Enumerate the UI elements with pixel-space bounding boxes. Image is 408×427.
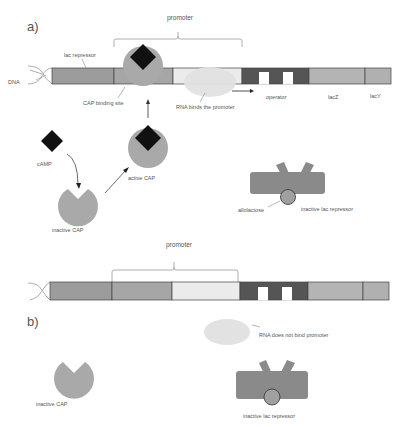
operator-notch	[282, 287, 292, 301]
segment-lacz	[309, 68, 365, 84]
segment-lac-repressor-gene	[52, 68, 114, 84]
promoter-bracket-a	[114, 32, 242, 47]
active-cap-label: active CAP	[128, 175, 156, 181]
dna-strands-icon-a	[28, 66, 52, 84]
rna-label-b: RNA does not bind promoter	[259, 332, 329, 338]
allolactose-icon	[264, 389, 280, 405]
segment-operator	[242, 68, 309, 84]
inactive-repressor-label-b: inactive lac repressor	[243, 413, 295, 419]
panel-a-label: a)	[27, 19, 39, 34]
inactive-repressor-label-a: inactive lac repressor	[301, 206, 353, 212]
leader-line	[82, 59, 86, 68]
camp-label: cAMP	[37, 161, 52, 167]
inactive-cap-label-b: inactive CAP	[36, 401, 68, 407]
curved-arrow-icon	[67, 154, 81, 189]
segment-operator	[240, 282, 308, 300]
leader-line	[118, 87, 125, 98]
dna-strip-b	[50, 282, 389, 300]
segment-cap-binding-site	[112, 282, 172, 300]
cap-binding-site-label: CAP binding site	[83, 100, 124, 106]
inactive-lac-repressor-icon-a	[250, 162, 325, 205]
panel-b-label: b)	[27, 314, 39, 329]
leader-line	[268, 201, 280, 207]
lacy-label: lacY	[370, 93, 381, 99]
rna-polymerase-bound-icon	[184, 67, 236, 97]
lac-operon-diagram: a) promoter DNA lac repressor CAP bindin…	[0, 0, 408, 427]
segment-promoter	[172, 282, 240, 300]
allolactose-icon	[281, 190, 296, 205]
promoter-label-a: promoter	[167, 14, 194, 22]
transcription-arrow-icon	[232, 89, 254, 93]
segment-lac-repressor-gene	[50, 282, 112, 300]
binding-arrow-icon	[146, 99, 150, 118]
operator-notch	[258, 287, 268, 301]
inactive-cap-icon	[54, 362, 94, 399]
lac-repressor-label: lac repressor	[64, 52, 96, 58]
rna-label-a: RNA binds the promoter	[176, 104, 235, 110]
operator-notch	[283, 72, 293, 85]
inactive-cap-icon	[58, 189, 98, 226]
leader-line	[252, 325, 260, 327]
camp-icon	[41, 130, 63, 152]
operator-label: operator	[266, 94, 287, 100]
rna-polymerase-free-icon	[204, 319, 250, 345]
operator-notch	[259, 72, 269, 85]
inactive-lac-repressor-icon-b	[236, 360, 308, 405]
dna-label: DNA	[8, 79, 20, 85]
allolactose-label: allolactose	[238, 207, 264, 213]
inactive-cap-label-a: inactive CAP	[52, 227, 84, 233]
segment-lacy	[365, 68, 391, 84]
promoter-label-b: promoter	[166, 241, 193, 249]
leader-line	[36, 75, 46, 80]
lacz-label: lacZ	[328, 94, 339, 100]
promoter-bracket-b	[112, 262, 238, 282]
segment-lacz	[308, 282, 363, 300]
segment-lacy	[363, 282, 389, 300]
dna-strands-icon-b	[28, 282, 50, 300]
activation-arrow-icon	[105, 167, 129, 193]
